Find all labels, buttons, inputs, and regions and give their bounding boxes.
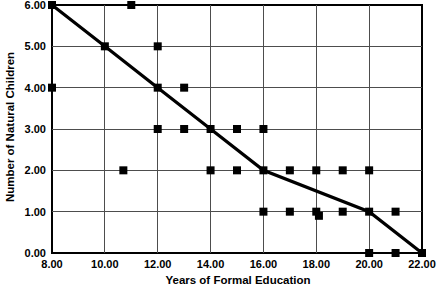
- x-tick-label: 20.00: [355, 258, 383, 270]
- scatter-plot-svg: 0.001.002.003.004.005.006.00 8.0010.0012…: [0, 0, 439, 288]
- data-point-marker: [180, 125, 188, 133]
- data-point-marker: [392, 208, 400, 216]
- data-point-marker: [180, 84, 188, 92]
- data-point-marker: [127, 1, 135, 9]
- data-point-marker: [233, 125, 241, 133]
- data-point-marker: [339, 208, 347, 216]
- data-point-marker: [315, 212, 323, 220]
- data-point-marker: [286, 166, 294, 174]
- x-tick-label: 10.00: [91, 258, 119, 270]
- data-point-marker: [365, 166, 373, 174]
- x-tick-label: 8.00: [41, 258, 62, 270]
- x-axis-tick-labels: 8.0010.0012.0014.0016.0018.0020.0022.00: [41, 258, 435, 270]
- data-point-marker: [365, 249, 373, 257]
- x-tick-label: 14.00: [197, 258, 225, 270]
- data-point-marker: [48, 84, 56, 92]
- y-axis-title: Number of Natural Children: [4, 52, 16, 202]
- y-tick-label: 2.00: [25, 164, 46, 176]
- x-tick-label: 16.00: [250, 258, 278, 270]
- data-point-marker: [312, 166, 320, 174]
- y-tick-label: 6.00: [25, 0, 46, 11]
- x-axis-title: Years of Formal Education: [165, 274, 310, 286]
- y-tick-label: 3.00: [25, 123, 46, 135]
- data-point-marker: [154, 42, 162, 50]
- y-tick-label: 1.00: [25, 206, 46, 218]
- data-point-marker: [154, 125, 162, 133]
- chart-container: 0.001.002.003.004.005.006.00 8.0010.0012…: [0, 0, 439, 288]
- data-point-marker: [207, 166, 215, 174]
- data-point-marker: [233, 166, 241, 174]
- x-tick-label: 18.00: [303, 258, 331, 270]
- x-tick-label: 22.00: [408, 258, 436, 270]
- data-point-marker: [259, 125, 267, 133]
- y-axis-tick-labels: 0.001.002.003.004.005.006.00: [25, 0, 46, 259]
- x-tick-label: 12.00: [144, 258, 172, 270]
- data-point-marker: [392, 249, 400, 257]
- data-point-marker: [259, 208, 267, 216]
- data-point-marker: [339, 166, 347, 174]
- y-tick-label: 5.00: [25, 40, 46, 52]
- y-tick-label: 4.00: [25, 82, 46, 94]
- data-point-marker: [119, 166, 127, 174]
- data-point-marker: [286, 208, 294, 216]
